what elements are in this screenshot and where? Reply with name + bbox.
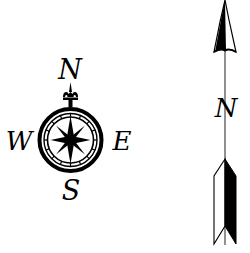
arrowhead-icon (214, 0, 236, 52)
arrow-north-label: N (214, 93, 239, 123)
compass-south-label: S (62, 175, 81, 206)
compass-rose: N W E S (6, 54, 132, 206)
compass-star-icon (51, 116, 91, 164)
compass-east-label: E (112, 126, 132, 156)
north-arrow: N (214, 0, 239, 245)
compass-north-label: N (57, 54, 83, 85)
compass-diagram: N W E S (0, 0, 250, 253)
compass-west-label: W (6, 126, 35, 156)
fleur-de-lis-icon (63, 82, 78, 107)
